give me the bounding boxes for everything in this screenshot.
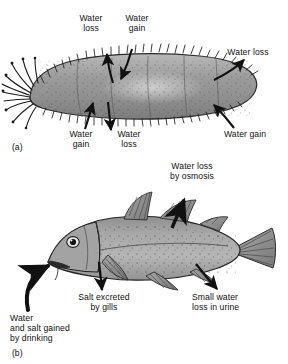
label-small-water-loss-in-urine: Small water loss in urine	[192, 292, 280, 312]
fish-eye-glint	[70, 239, 72, 241]
cucumber-texture	[40, 60, 250, 116]
label-water-gain-right: Water gain	[212, 129, 278, 139]
label-water-gain-bottom: Water gain	[58, 129, 104, 149]
fish-flank-speckles	[100, 234, 236, 274]
label-water-loss-right: Water loss	[216, 47, 280, 57]
panel-marker-b: (b)	[12, 348, 23, 358]
fish-caudal-fin	[236, 228, 276, 268]
label-salt-excreted-by-gills: Salt excreted by gills	[62, 292, 146, 312]
arrow-drinking-intake	[27, 266, 48, 310]
label-water-loss-top: Water loss	[68, 13, 114, 33]
label-water-loss-bottom: Water loss	[106, 129, 152, 149]
label-water-gain-top: Water gain	[114, 13, 160, 33]
label-water-and-salt-gained-by-drinking: Water and salt gained by drinking	[10, 313, 110, 344]
fish-chin-barbel	[55, 268, 58, 280]
panel-marker-a: (a)	[12, 142, 23, 152]
osmoregulation-figure: Water loss Water gain Water loss Water g…	[0, 0, 288, 364]
fish-illustration	[48, 192, 276, 290]
label-water-loss-by-osmosis: Water loss by osmosis	[150, 161, 234, 181]
